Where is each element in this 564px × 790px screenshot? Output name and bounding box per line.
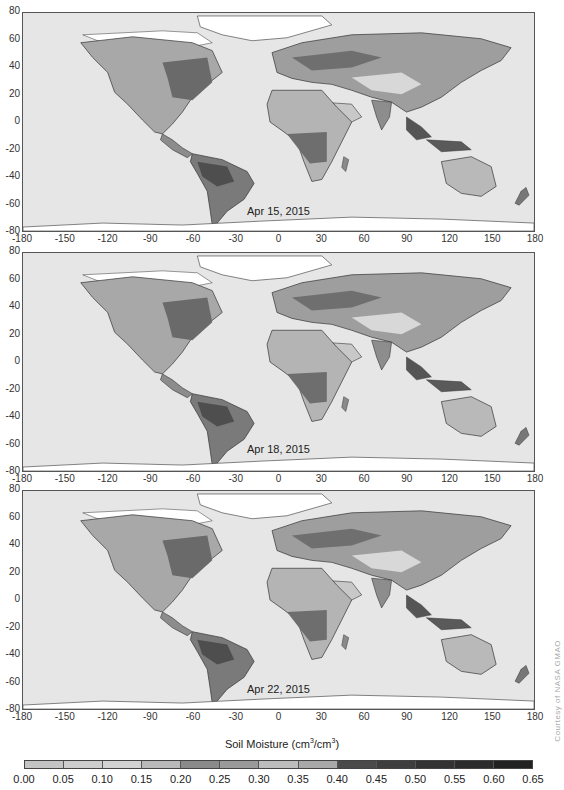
- colorbar-segment: [455, 761, 494, 768]
- y-tick-label: 20: [0, 88, 20, 99]
- x-tick-label: 90: [392, 711, 422, 722]
- colorbar-tick-label: 0.20: [163, 773, 199, 785]
- date-label: Apr 22, 2015: [23, 683, 534, 695]
- colorbar-segment: [259, 761, 298, 768]
- y-tick-label: 0: [0, 593, 20, 604]
- date-label: Apr 15, 2015: [23, 205, 534, 217]
- y-tick-label: 40: [0, 300, 20, 311]
- colorbar-tick-label: 0.35: [280, 773, 316, 785]
- x-tick-label: -60: [178, 233, 208, 244]
- x-tick-label: 120: [435, 473, 465, 484]
- y-tick-label: 60: [0, 511, 20, 522]
- y-tick-label: 80: [0, 5, 20, 16]
- x-tick-label: 150: [477, 233, 507, 244]
- image-credit: Courtesy of NASA GMAO: [553, 640, 562, 742]
- y-tick-label: 40: [0, 60, 20, 71]
- colorbar: [24, 760, 533, 769]
- y-tick-label: -60: [0, 198, 20, 209]
- y-tick-label: 60: [0, 33, 20, 44]
- y-tick-label: 0: [0, 115, 20, 126]
- colorbar-segment: [142, 761, 181, 768]
- x-tick-label: -120: [93, 473, 123, 484]
- x-tick-label: -150: [50, 473, 80, 484]
- x-tick-label: -150: [50, 233, 80, 244]
- x-tick-label: 180: [520, 711, 550, 722]
- y-tick-label: 40: [0, 538, 20, 549]
- x-tick-label: -30: [221, 473, 251, 484]
- world-map: [23, 13, 534, 231]
- x-tick-label: 150: [477, 711, 507, 722]
- map-panel-apr22: Apr 22, 2015: [22, 490, 535, 710]
- colorbar-segment: [338, 761, 377, 768]
- x-tick-label: 180: [520, 473, 550, 484]
- date-label: Apr 18, 2015: [23, 443, 534, 455]
- colorbar-tick-label: 0.45: [358, 773, 394, 785]
- x-tick-label: -30: [221, 711, 251, 722]
- y-tick-label: -20: [0, 383, 20, 394]
- x-tick-label: 180: [520, 233, 550, 244]
- x-tick-label: -150: [50, 711, 80, 722]
- x-tick-label: -90: [135, 233, 165, 244]
- x-tick-label: -90: [135, 473, 165, 484]
- colorbar-title: Soil Moisture (cm3/cm3): [0, 737, 564, 750]
- world-map: [23, 491, 534, 709]
- colorbar-segment: [25, 761, 64, 768]
- x-tick-label: 30: [306, 233, 336, 244]
- x-tick-label: -30: [221, 233, 251, 244]
- y-tick-label: -40: [0, 170, 20, 181]
- colorbar-segment: [64, 761, 103, 768]
- colorbar-segment: [103, 761, 142, 768]
- colorbar-tick-label: 0.15: [123, 773, 159, 785]
- x-tick-label: 120: [435, 711, 465, 722]
- x-tick-label: 0: [264, 233, 294, 244]
- colorbar-tick-label: 0.65: [515, 773, 551, 785]
- x-tick-label: 90: [392, 473, 422, 484]
- colorbar-tick-label: 0.30: [241, 773, 277, 785]
- x-tick-label: 90: [392, 233, 422, 244]
- x-tick-label: -180: [7, 233, 37, 244]
- x-tick-label: -90: [135, 711, 165, 722]
- x-tick-label: -120: [93, 233, 123, 244]
- colorbar-title-text: Soil Moisture (cm: [225, 738, 310, 750]
- y-tick-label: 20: [0, 328, 20, 339]
- y-tick-label: 60: [0, 273, 20, 284]
- colorbar-tick-label: 0.10: [84, 773, 120, 785]
- colorbar-tick-label: 0.60: [476, 773, 512, 785]
- x-tick-label: -60: [178, 473, 208, 484]
- y-tick-label: 0: [0, 355, 20, 366]
- x-tick-label: 150: [477, 473, 507, 484]
- colorbar-tick-label: 0.50: [398, 773, 434, 785]
- x-tick-label: 30: [306, 711, 336, 722]
- colorbar-segment: [377, 761, 416, 768]
- y-tick-label: -60: [0, 438, 20, 449]
- colorbar-segment: [299, 761, 338, 768]
- y-tick-label: -60: [0, 676, 20, 687]
- x-tick-label: 30: [306, 473, 336, 484]
- x-tick-label: -180: [7, 711, 37, 722]
- colorbar-segment: [416, 761, 455, 768]
- x-tick-label: -60: [178, 711, 208, 722]
- colorbar-tick-label: 0.40: [319, 773, 355, 785]
- colorbar-segment: [181, 761, 220, 768]
- colorbar-tick-label: 0.05: [45, 773, 81, 785]
- x-tick-label: 120: [435, 233, 465, 244]
- colorbar-tick-label: 0.25: [202, 773, 238, 785]
- colorbar-tick-label: 0.55: [437, 773, 473, 785]
- map-panel-apr15: Apr 15, 2015: [22, 12, 535, 232]
- y-tick-label: 80: [0, 483, 20, 494]
- y-tick-label: -40: [0, 410, 20, 421]
- world-map: [23, 253, 534, 471]
- colorbar-segment: [494, 761, 532, 768]
- x-tick-label: 60: [349, 711, 379, 722]
- x-tick-label: 60: [349, 233, 379, 244]
- y-tick-label: 20: [0, 566, 20, 577]
- y-tick-label: -20: [0, 621, 20, 632]
- map-panel-apr18: Apr 18, 2015: [22, 252, 535, 472]
- x-tick-label: 0: [264, 473, 294, 484]
- colorbar-title-text: ): [335, 738, 339, 750]
- y-tick-label: -40: [0, 648, 20, 659]
- x-tick-label: 0: [264, 711, 294, 722]
- colorbar-segment: [220, 761, 259, 768]
- x-tick-label: -120: [93, 711, 123, 722]
- colorbar-tick-label: 0.00: [6, 773, 42, 785]
